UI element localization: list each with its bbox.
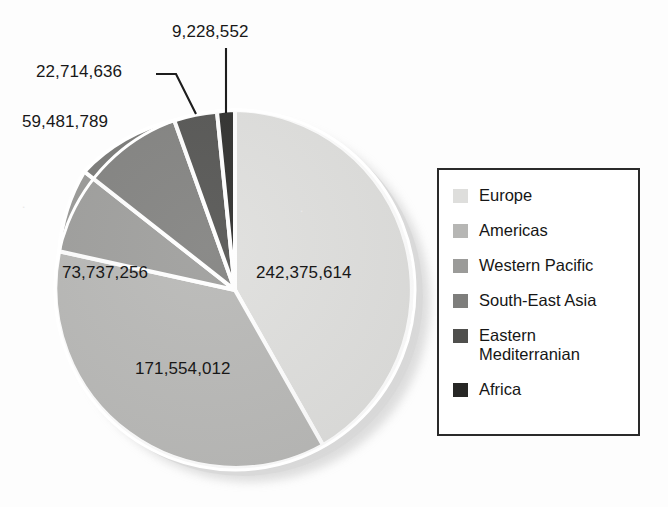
slice-label-eastern-mediterranian: 22,714,636	[36, 62, 122, 82]
legend-label-europe: Europe	[479, 186, 532, 205]
legend-label-americas: Americas	[479, 221, 548, 240]
scan-artifact: .	[22, 196, 25, 212]
legend-label-text: Europe	[479, 186, 532, 204]
legend-label-eastern-mediterranian: Eastern Mediterranian	[479, 326, 580, 364]
legend-label-text: South-East Asia	[479, 291, 596, 309]
leader-line-eastern-mediterranian	[156, 74, 196, 114]
legend-swatch-icon-africa	[453, 383, 468, 397]
legend-item-western-pacific[interactable]: Western Pacific	[453, 256, 628, 275]
legend-label-text-line2: Mediterranian	[479, 345, 580, 364]
slice-label-western-pacific: 73,737,256	[62, 263, 148, 283]
legend-item-americas[interactable]: Americas	[453, 221, 628, 240]
chart-canvas: . . 242,375,614 171,554,012 73,737,256 5…	[0, 0, 668, 507]
legend-item-eastern-mediterranian[interactable]: Eastern Mediterranian	[453, 326, 628, 364]
legend-label-text: Americas	[479, 221, 548, 239]
legend-item-south-east-asia[interactable]: South-East Asia	[453, 291, 628, 310]
slice-label-south-east-asia: 59,481,789	[22, 112, 108, 132]
slice-label-africa: 9,228,552	[172, 22, 249, 42]
legend-label-south-east-asia: South-East Asia	[479, 291, 596, 310]
slice-label-europe: 242,375,614	[256, 263, 352, 283]
legend-label-africa: Africa	[479, 380, 521, 399]
legend-item-africa[interactable]: Africa	[453, 380, 628, 399]
legend-swatch-icon-eastern-mediterranian	[453, 329, 468, 343]
pie-paper-tone	[55, 110, 415, 470]
legend-label-western-pacific: Western Pacific	[479, 256, 593, 275]
slice-label-americas: 171,554,012	[135, 359, 231, 379]
legend-swatch-icon-europe	[453, 189, 468, 203]
legend-item-europe[interactable]: Europe	[453, 186, 628, 205]
legend-swatch-icon-western-pacific	[453, 259, 468, 273]
scan-artifact: .	[300, 200, 303, 216]
legend-label-text: Africa	[479, 380, 521, 398]
legend-label-text: Western Pacific	[479, 256, 593, 274]
legend-label-text-line1: Eastern	[479, 326, 536, 344]
leader-lines	[156, 48, 226, 114]
legend-swatch-icon-americas	[453, 224, 468, 238]
chart-legend: Europe Americas Western Pacific South-Ea…	[437, 168, 640, 436]
legend-swatch-icon-south-east-asia	[453, 294, 468, 308]
